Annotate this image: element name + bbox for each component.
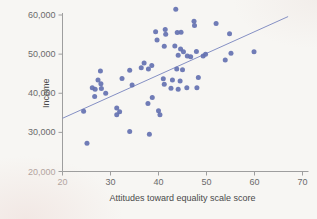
data-point [196, 75, 201, 80]
data-point [168, 86, 173, 91]
data-point [120, 76, 125, 81]
data-point [149, 63, 154, 68]
x-axis-title: Attitudes toward equality scale score [109, 193, 255, 203]
data-point [163, 27, 168, 32]
data-point [192, 19, 197, 24]
data-point [170, 77, 175, 82]
data-point [145, 101, 150, 106]
data-point [93, 87, 98, 92]
data-point [163, 32, 168, 37]
data-point [176, 53, 181, 58]
x-tick-label: 40 [153, 177, 163, 187]
axis-ticks: 20304050607020,00030,00040,00050,00060,0… [28, 10, 308, 187]
data-point [130, 83, 135, 88]
x-tick-label: 30 [105, 177, 115, 187]
data-point [192, 23, 197, 28]
y-tick-label: 20,000 [28, 167, 56, 177]
data-point [188, 54, 193, 59]
data-point [99, 86, 104, 91]
data-point [127, 129, 132, 134]
x-tick-label: 60 [249, 177, 259, 187]
data-point [252, 49, 257, 54]
data-point [180, 67, 185, 72]
data-point [150, 95, 155, 100]
data-point [98, 68, 103, 73]
data-point [84, 141, 89, 146]
data-point [228, 51, 233, 56]
data-point [81, 109, 86, 114]
data-points-group [81, 7, 256, 146]
data-point [172, 43, 177, 48]
data-point [214, 21, 219, 26]
data-point [227, 31, 232, 36]
data-point [139, 65, 144, 70]
y-axis-title: Income [41, 78, 51, 108]
data-point [179, 30, 184, 35]
data-point [98, 81, 103, 86]
x-tick-label: 20 [57, 177, 67, 187]
data-point [178, 79, 183, 84]
x-tick-label: 70 [297, 177, 307, 187]
data-point [194, 49, 199, 54]
data-point [147, 132, 152, 137]
data-point [103, 91, 108, 96]
data-point [157, 112, 162, 117]
data-point [194, 85, 199, 90]
data-point [161, 76, 166, 81]
data-point [176, 87, 181, 92]
y-tick-label: 60,000 [28, 10, 56, 20]
data-point [173, 7, 178, 12]
data-point [162, 82, 167, 87]
x-tick-label: 50 [201, 177, 211, 187]
data-point [174, 66, 179, 71]
data-point [181, 49, 186, 54]
data-point [117, 109, 122, 114]
data-point [142, 61, 147, 66]
data-point [127, 68, 132, 73]
scatter-plot-figure: 20304050607020,00030,00040,00050,00060,0… [0, 0, 317, 219]
data-point [153, 29, 158, 34]
data-point [155, 38, 160, 43]
data-point [162, 44, 167, 49]
scatter-chart: 20304050607020,00030,00040,00050,00060,0… [0, 0, 317, 219]
data-point [92, 94, 97, 99]
axes [63, 13, 309, 172]
y-tick-label: 30,000 [28, 127, 56, 137]
data-point [223, 57, 228, 62]
data-point [203, 52, 208, 57]
y-tick-label: 50,000 [28, 49, 56, 59]
data-point [184, 85, 189, 90]
